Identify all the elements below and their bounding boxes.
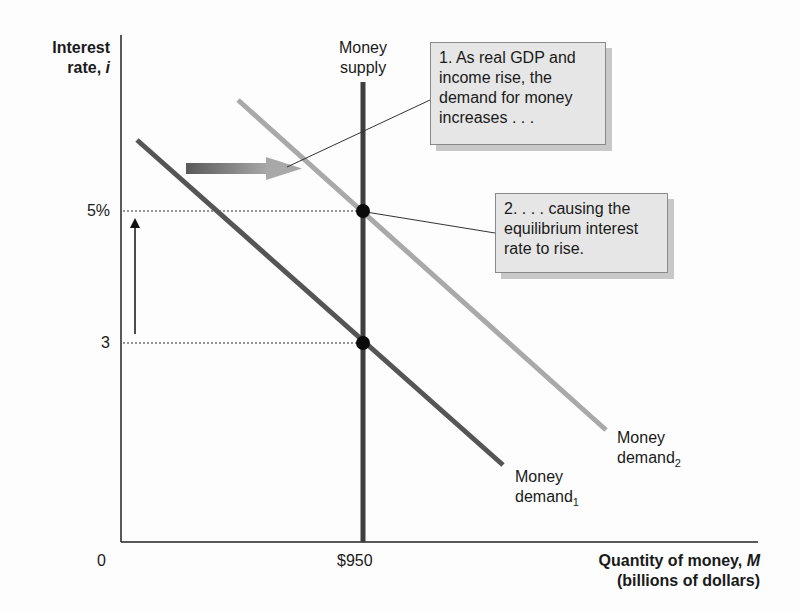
money-supply-label-line2: supply xyxy=(325,58,401,78)
money-demand-1-label-line1: Money xyxy=(515,467,579,487)
y-tick-5pct: 5% xyxy=(60,201,110,221)
y-axis-title-line1: Interest xyxy=(20,38,110,58)
y-axis-title-text: rate, xyxy=(67,59,105,76)
money-demand-1-curve xyxy=(137,140,503,465)
y-axis-title: Interest rate, i xyxy=(20,38,110,78)
money-demand-1-label-line2: demand1 xyxy=(515,487,579,507)
money-demand-2-label-line1: Money xyxy=(617,428,681,448)
x-axis-title-text: Quantity of money, xyxy=(599,552,747,569)
x-axis-title-line2: (billions of dollars) xyxy=(520,571,760,591)
money-supply-label: Money supply xyxy=(325,38,401,78)
callout-box-2: 2. . . . causing the equilibrium interes… xyxy=(495,193,668,273)
callout-1-leader xyxy=(287,100,430,167)
rise-up-arrow-icon xyxy=(130,218,140,334)
money-demand-2-subscript: 2 xyxy=(675,457,681,469)
y-axis-title-line2: rate, i xyxy=(20,58,110,78)
money-demand-1-label: Money demand1 xyxy=(515,467,579,507)
x-axis-title: Quantity of money, M (billions of dollar… xyxy=(520,551,760,591)
y-axis-variable: i xyxy=(106,59,110,76)
money-demand-1-label-text: demand xyxy=(515,488,573,505)
money-demand-2-label-line2: demand2 xyxy=(617,448,681,468)
callout-box-1: 1. As real GDP and income rise, the dema… xyxy=(430,42,606,145)
x-tick-origin: 0 xyxy=(97,551,106,571)
equilibrium-point-5pct xyxy=(356,204,370,218)
x-axis-variable: M xyxy=(747,552,760,569)
y-tick-3: 3 xyxy=(60,333,110,353)
equilibrium-point-3pct xyxy=(356,336,370,350)
money-demand-1-subscript: 1 xyxy=(573,496,579,508)
shift-right-arrow-icon xyxy=(186,157,302,180)
x-axis-title-line1: Quantity of money, M xyxy=(520,551,760,571)
money-supply-label-line1: Money xyxy=(325,38,401,58)
money-demand-2-label: Money demand2 xyxy=(617,428,681,468)
x-tick-950: $950 xyxy=(337,551,373,571)
money-demand-2-label-text: demand xyxy=(617,449,675,466)
chart-canvas xyxy=(0,0,800,613)
